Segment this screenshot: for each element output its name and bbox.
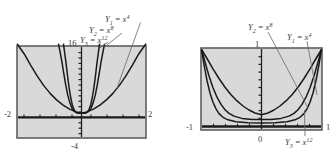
- right-panel-xmin-label: -1: [186, 122, 193, 132]
- left-panel-xmax-label: 2: [148, 109, 152, 119]
- right-panel-ymax-label: 1: [255, 39, 259, 49]
- figure-root: -2 2 16 -4 Y1= x4 Y2= x8 Y3= x12: [0, 0, 336, 160]
- right-panel-xmax-label: 1: [326, 122, 330, 132]
- left-panel-xmin-label: -2: [4, 109, 11, 119]
- two-panel-graph-figure: -2 2 16 -4 Y1= x4 Y2= x8 Y3= x12: [0, 0, 336, 160]
- left-panel-ymin-label: -4: [71, 141, 79, 151]
- right-panel-ymin-label: 0: [258, 134, 262, 144]
- left-panel-ymax-label: 16: [68, 38, 77, 48]
